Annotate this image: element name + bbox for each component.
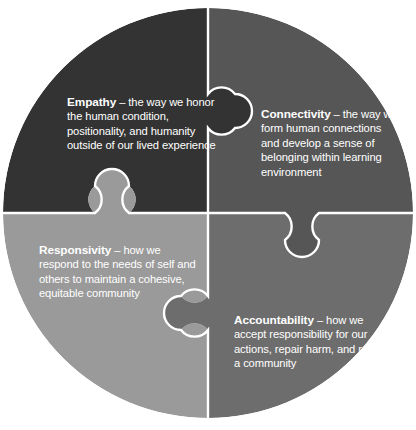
piece-term-connectivity: Connectivity (261, 107, 331, 121)
piece-dash-connectivity: – (331, 108, 343, 120)
piece-term-accountability: Accountability (234, 313, 314, 327)
piece-dash-accountability: – (314, 314, 326, 326)
piece-dash-responsivity: – (111, 244, 123, 256)
jigsaw-diagram: Empathy – the way we honor the human con… (0, 0, 416, 430)
piece-label-accountability: Accountability – how we accept responsib… (234, 298, 394, 371)
piece-label-empathy: Empathy – the way we honor the human con… (67, 80, 219, 153)
piece-term-empathy: Empathy (67, 95, 116, 109)
piece-dash-empathy: – (116, 96, 128, 108)
piece-label-connectivity: Connectivity – the way we form human con… (261, 92, 401, 180)
piece-term-responsivity: Responsivity (39, 243, 111, 257)
piece-label-responsivity: Responsivity – how we respond to the nee… (39, 228, 201, 301)
